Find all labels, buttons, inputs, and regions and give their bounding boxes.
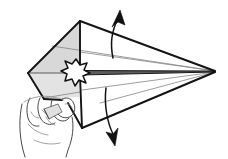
left-hand-grip [20, 96, 80, 157]
spine-edge-top [80, 71, 215, 72]
fold-up-arrow-head [112, 10, 125, 27]
edge-flap-bottom [44, 99, 62, 100]
diagram-canvas: Paper airplane folding step hand grippin… [0, 0, 228, 159]
origami-step-illustration [0, 0, 228, 159]
